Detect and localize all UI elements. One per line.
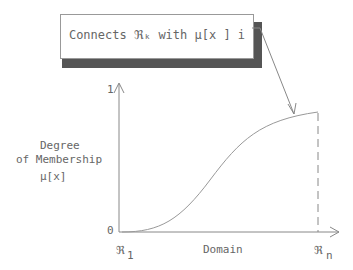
tick-1: 1 — [107, 83, 114, 96]
y-label-1: Degree — [40, 139, 80, 152]
x-label: Domain — [203, 243, 243, 256]
membership-curve — [122, 112, 318, 232]
callout-pointer — [260, 28, 294, 114]
x-start-label: ℜ1 — [116, 244, 134, 257]
y-label-3: μ[x] — [40, 170, 67, 183]
y-label-2: of Membership — [16, 153, 102, 166]
tick-0: 0 — [107, 224, 114, 237]
x-end-label: ℜn — [314, 244, 333, 257]
membership-chart — [0, 0, 353, 270]
